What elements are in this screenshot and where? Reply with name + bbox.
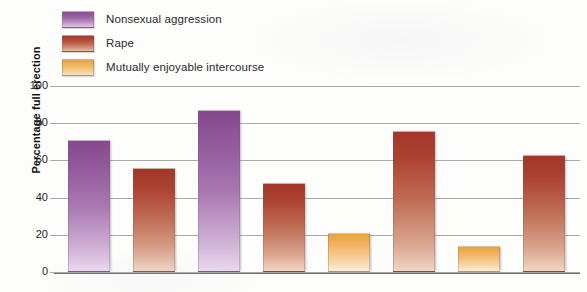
- y-axis-tick-label: 100: [20, 79, 48, 91]
- bar: [523, 155, 565, 272]
- y-axis-tick: [50, 123, 58, 124]
- y-axis-tick-label: 0: [20, 265, 48, 277]
- y-axis-tick-label: 20: [20, 228, 48, 240]
- gridline: [58, 272, 580, 273]
- legend-item-nonsexual-aggression: Nonsexual aggression: [62, 8, 362, 30]
- y-axis-tick: [50, 160, 58, 161]
- bar: [68, 140, 110, 272]
- y-axis-tick: [50, 198, 58, 199]
- legend-item-rape: Rape: [62, 32, 362, 54]
- y-axis-tick-label: 60: [20, 153, 48, 165]
- y-axis-tick-label: 40: [20, 191, 48, 203]
- legend-item-mutually-enjoyable-intercourse: Mutually enjoyable intercourse: [62, 56, 362, 78]
- bar: [328, 233, 370, 272]
- y-axis-tick: [50, 272, 58, 273]
- y-axis-tick: [50, 235, 58, 236]
- y-axis-tick: [50, 86, 58, 87]
- legend-swatch-icon: [62, 35, 94, 52]
- bar: [263, 183, 305, 272]
- legend-swatch-icon: [62, 59, 94, 76]
- y-axis-tick-label: 80: [20, 116, 48, 128]
- y-axis-tick-labels: 020406080100: [16, 86, 48, 272]
- bar: [133, 168, 175, 272]
- gridline: [58, 123, 580, 124]
- gridline: [58, 160, 580, 161]
- legend-item-label: Nonsexual aggression: [106, 13, 222, 25]
- legend-item-label: Mutually enjoyable intercourse: [106, 61, 264, 73]
- gridline: [58, 86, 580, 87]
- legend-swatch-icon: [62, 11, 94, 28]
- bar: [198, 110, 240, 272]
- bar: [393, 131, 435, 273]
- legend-item-label: Rape: [106, 37, 134, 49]
- chart-legend: Nonsexual aggression Rape Mutually enjoy…: [62, 8, 362, 80]
- bar: [458, 246, 500, 272]
- plot-area: [58, 86, 580, 272]
- chart-figure: Nonsexual aggression Rape Mutually enjoy…: [0, 0, 587, 292]
